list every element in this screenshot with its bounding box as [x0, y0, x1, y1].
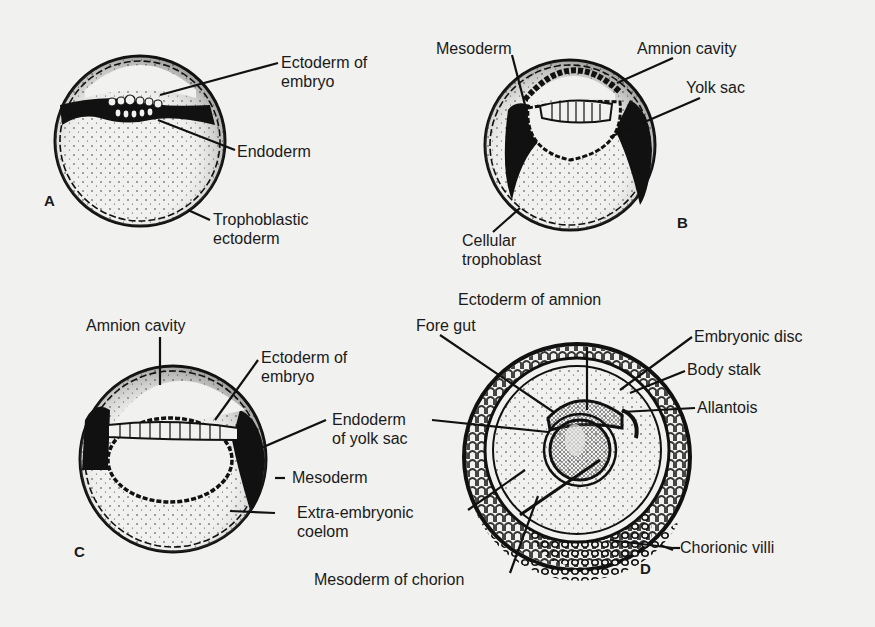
label-b-mesoderm: Mesoderm — [436, 39, 512, 58]
label-c-ectoderm-of-embryo: Ectoderm of embryo — [261, 348, 347, 386]
label-a-endoderm: Endoderm — [237, 142, 311, 161]
label-b-yolk-sac: Yolk sac — [686, 78, 745, 97]
label-d-chorionic-villi: Chorionic villi — [680, 538, 774, 557]
label-d-body-stalk: Body stalk — [687, 360, 761, 379]
label-d-fore-gut: Fore gut — [416, 316, 476, 335]
label-line: ectoderm — [213, 229, 308, 248]
label-line: of yolk sac — [332, 429, 408, 448]
panel-a-illustration — [55, 56, 278, 226]
panel-letter-c: C — [74, 543, 85, 560]
label-c-mesoderm: Mesoderm — [292, 468, 368, 487]
label-c-endoderm-of-yolk-sac: Endoderm of yolk sac — [332, 410, 408, 448]
label-b-amnion-cavity: Amnion cavity — [637, 39, 737, 58]
label-line: Ectoderm of — [281, 53, 367, 72]
label-line: embryo — [261, 367, 347, 386]
label-line: Endoderm — [332, 410, 408, 429]
label-a-ectoderm-of-embryo: Ectoderm of embryo — [281, 53, 367, 91]
label-c-amnion-cavity: Amnion cavity — [86, 316, 186, 335]
label-a-trophoblastic-ectoderm: Trophoblastic ectoderm — [213, 210, 308, 248]
label-d-mesoderm-of-chorion: Mesoderm of chorion — [314, 570, 464, 589]
label-d-embryonic-disc: Embryonic disc — [694, 327, 802, 346]
label-b-cellular-trophoblast: Cellular trophoblast — [462, 231, 541, 269]
label-line: Trophoblastic — [213, 210, 308, 229]
panel-letter-b: B — [677, 214, 688, 231]
label-line: Ectoderm of — [261, 348, 347, 367]
panel-letter-d: D — [640, 560, 651, 577]
panel-letter-a: A — [44, 192, 55, 209]
panel-d-illustration — [432, 335, 695, 581]
label-line: embryo — [281, 72, 367, 91]
label-line: Cellular — [462, 231, 541, 250]
label-line: Extra-embryonic — [297, 503, 413, 522]
label-d-allantois: Allantois — [697, 398, 757, 417]
label-c-extra-embryonic-coelom: Extra-embryonic coelom — [297, 503, 413, 541]
panel-b-illustration — [485, 55, 700, 232]
label-d-ectoderm-of-amnion: Ectoderm of amnion — [458, 290, 601, 309]
label-line: coelom — [297, 522, 413, 541]
label-line: trophoblast — [462, 250, 541, 269]
